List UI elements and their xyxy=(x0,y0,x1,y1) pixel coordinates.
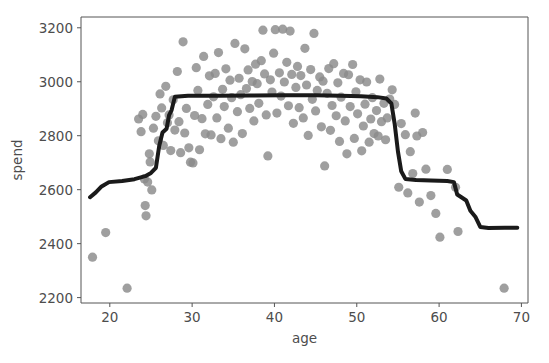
scatter-point xyxy=(170,125,179,134)
scatter-point xyxy=(366,114,375,123)
scatter-point xyxy=(304,131,313,140)
scatter-point xyxy=(332,111,341,120)
scatter-point xyxy=(360,100,369,109)
scatter-point xyxy=(101,228,110,237)
scatter-point xyxy=(411,108,420,117)
scatter-point xyxy=(240,44,249,53)
y-tick-label: 2800 xyxy=(39,128,73,144)
scatter-point xyxy=(453,227,462,236)
scatter-point xyxy=(296,71,305,80)
scatter-point xyxy=(212,113,221,122)
scatter-point xyxy=(383,113,392,122)
scatter-point xyxy=(180,128,189,137)
y-axis-label: spend xyxy=(9,139,25,180)
scatter-point xyxy=(218,85,227,94)
scatter-point xyxy=(284,101,293,110)
scatter-point xyxy=(418,128,427,137)
scatter-point xyxy=(408,169,417,178)
scatter-point xyxy=(394,183,403,192)
scatter-point xyxy=(320,161,329,170)
scatter-point xyxy=(275,68,284,77)
scatter-point xyxy=(206,130,215,139)
scatter-point xyxy=(176,148,185,157)
scatter-point xyxy=(258,26,267,35)
scatter-point xyxy=(253,79,262,88)
scatter-point xyxy=(173,67,182,76)
scatter-point xyxy=(138,110,147,119)
scatter-point xyxy=(233,107,242,116)
scatter-point xyxy=(311,106,320,115)
scatter-plot-canvas: 220024002600280030003200203040506070ages… xyxy=(0,0,549,363)
scatter-point xyxy=(192,63,201,72)
scatter-point xyxy=(211,69,220,78)
scatter-point xyxy=(341,116,350,125)
scatter-point xyxy=(220,102,229,111)
scatter-point xyxy=(155,89,164,98)
scatter-point xyxy=(141,211,150,220)
scatter-point xyxy=(326,126,335,135)
scatter-point xyxy=(269,49,278,58)
scatter-point xyxy=(348,60,357,69)
scatter-point xyxy=(199,52,208,61)
y-tick-label: 2200 xyxy=(39,290,73,306)
scatter-point xyxy=(178,37,187,46)
scatter-point xyxy=(342,149,351,158)
scatter-point xyxy=(306,65,315,74)
scatter-point xyxy=(381,135,390,144)
scatter-point xyxy=(309,29,318,38)
scatter-point xyxy=(214,48,223,57)
scatter-point xyxy=(375,74,384,83)
scatter-point xyxy=(166,146,175,155)
scatter-point xyxy=(254,99,263,108)
scatter-point xyxy=(230,39,239,48)
scatter-point xyxy=(365,138,374,147)
scatter-point xyxy=(147,185,156,194)
scatter-point xyxy=(149,124,158,133)
scatter-point xyxy=(435,233,444,242)
scatter-point xyxy=(272,108,281,117)
scatter-point xyxy=(145,149,154,158)
scatter-point xyxy=(415,197,424,206)
scatter-point xyxy=(143,178,152,187)
scatter-point xyxy=(401,130,410,139)
scatter-point xyxy=(245,104,254,113)
scatter-point xyxy=(295,103,304,112)
scatter-point xyxy=(224,124,233,133)
x-tick-label: 70 xyxy=(513,309,530,325)
scatter-point xyxy=(263,151,272,160)
scatter-point xyxy=(88,253,97,262)
scatter-point xyxy=(500,284,509,293)
scatter-point xyxy=(335,137,344,146)
scatter-point xyxy=(406,147,415,156)
scatter-point xyxy=(203,100,212,109)
scatter-point xyxy=(249,116,258,125)
scatter-point xyxy=(174,117,183,126)
matplotlib-figure: 220024002600280030003200203040506070ages… xyxy=(0,0,549,363)
scatter-point xyxy=(184,143,193,152)
scatter-point xyxy=(359,121,368,130)
scatter-point xyxy=(421,165,430,174)
scatter-point xyxy=(157,103,166,112)
scatter-point xyxy=(141,201,150,210)
x-tick-label: 20 xyxy=(101,309,118,325)
scatter-point xyxy=(346,102,355,111)
scatter-point xyxy=(195,145,204,154)
scatter-point xyxy=(287,70,296,79)
scatter-point xyxy=(289,119,298,128)
scatter-point xyxy=(291,83,300,92)
scatter-point xyxy=(262,110,271,119)
y-tick-label: 3000 xyxy=(39,74,73,90)
scatter-point xyxy=(193,86,202,95)
x-tick-label: 40 xyxy=(266,309,283,325)
scatter-point xyxy=(397,119,406,128)
scatter-point xyxy=(327,101,336,110)
scatter-point xyxy=(225,76,234,85)
scatter-point xyxy=(238,129,247,138)
scatter-point xyxy=(136,127,145,136)
scatter-point xyxy=(229,138,238,147)
scatter-point xyxy=(293,62,302,71)
scatter-point xyxy=(300,44,309,53)
scatter-point xyxy=(188,158,197,167)
scatter-point xyxy=(161,82,170,91)
scatter-point xyxy=(353,109,362,118)
